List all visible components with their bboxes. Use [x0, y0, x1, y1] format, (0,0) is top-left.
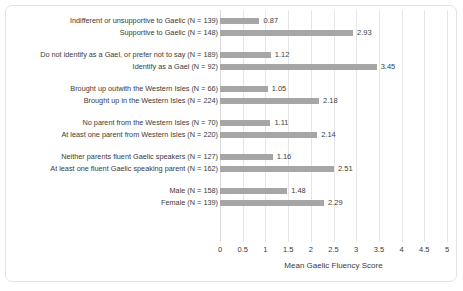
bar-row: 0.87 [220, 18, 447, 24]
bar-value-label: 1.48 [291, 185, 306, 196]
category-label: At least one fluent Gaelic speaking pare… [3, 164, 218, 173]
gridline [424, 10, 425, 242]
bar [220, 64, 377, 70]
bar [220, 154, 273, 160]
x-tick-label: 5 [445, 245, 449, 254]
bar [220, 166, 334, 172]
bar [220, 200, 324, 206]
bar-row: 2.18 [220, 98, 447, 104]
bar-row: 2.93 [220, 30, 447, 36]
bar-row: 1.11 [220, 120, 447, 126]
category-label: Identify as a Gael (N = 92) [3, 62, 218, 71]
x-tick-label: 3.5 [374, 245, 384, 254]
bar-value-label: 1.11 [274, 117, 288, 128]
bar-value-label: 2.18 [323, 95, 338, 106]
x-axis-title: Mean Gaelic Fluency Score [220, 261, 447, 270]
bar-value-label: 3.45 [381, 61, 396, 72]
x-tick-label: 0.5 [237, 245, 247, 254]
category-axis-labels: Indifferent or unsupportive to Gaelic (N… [0, 10, 218, 242]
gridline [311, 10, 312, 242]
gridline [220, 10, 221, 242]
x-tick-label: 0 [218, 245, 222, 254]
bar-row: 2.51 [220, 166, 447, 172]
bar [220, 132, 317, 138]
category-label: Indifferent or unsupportive to Gaelic (N… [3, 16, 218, 25]
bar-row: 1.48 [220, 188, 447, 194]
bar [220, 98, 319, 104]
plot-area: 0.872.931.123.451.052.181.112.141.162.51… [220, 10, 447, 242]
category-label: Female (N = 139) [3, 198, 218, 207]
category-label: Supportive to Gaelic (N = 148) [3, 28, 218, 37]
gridline [379, 10, 380, 242]
category-label: Neither parents fluent Gaelic speakers (… [3, 152, 218, 161]
bar-row: 2.14 [220, 132, 447, 138]
category-label: Brought up outwith the Western Isles (N … [3, 84, 218, 93]
x-axis-tick-labels: 00.511.522.533.544.55 [220, 245, 447, 257]
x-tick-label: 2.5 [328, 245, 338, 254]
bar-value-label: 2.29 [328, 197, 343, 208]
bar-row: 1.16 [220, 154, 447, 160]
bar [220, 52, 271, 58]
bar [220, 18, 259, 24]
gridline [265, 10, 266, 242]
bar-value-label: 2.93 [357, 27, 372, 38]
x-tick-label: 2 [309, 245, 313, 254]
x-tick-label: 3 [354, 245, 358, 254]
bar-value-label: 2.51 [338, 163, 353, 174]
bar [220, 120, 270, 126]
category-label: Male (N = 158) [3, 186, 218, 195]
gridline [447, 10, 448, 242]
category-label: No parent from the Western Isles (N = 70… [3, 118, 218, 127]
bar-row: 1.05 [220, 86, 447, 92]
x-tick-label: 1.5 [283, 245, 293, 254]
x-tick-label: 1 [263, 245, 267, 254]
category-label: Brought up in the Western Isles (N = 224… [3, 96, 218, 105]
bar [220, 188, 287, 194]
gaelic-fluency-bar-chart: 0.872.931.123.451.052.181.112.141.162.51… [0, 0, 463, 291]
bar-value-label: 1.16 [277, 151, 292, 162]
x-tick-label: 4.5 [419, 245, 429, 254]
bar-row: 2.29 [220, 200, 447, 206]
bar-row: 1.12 [220, 52, 447, 58]
bar-value-label: 1.12 [275, 49, 290, 60]
category-label: At least one parent from Western Isles (… [3, 130, 218, 139]
bar [220, 30, 353, 36]
category-label: Do not identify as a Gael, or prefer not… [3, 50, 218, 59]
gridline [243, 10, 244, 242]
bar-value-label: 2.14 [321, 129, 336, 140]
x-tick-label: 4 [400, 245, 404, 254]
bar-value-label: 1.05 [272, 83, 287, 94]
bar-value-label: 0.87 [263, 15, 278, 26]
gridline [402, 10, 403, 242]
gridline [356, 10, 357, 242]
bar [220, 86, 268, 92]
bar-row: 3.45 [220, 64, 447, 70]
